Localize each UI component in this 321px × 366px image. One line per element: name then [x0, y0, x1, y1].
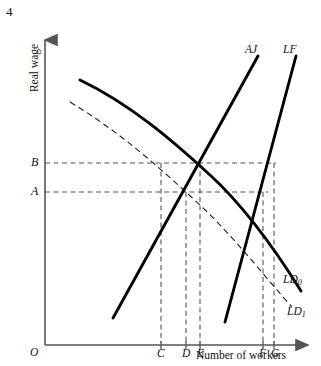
curve-label-ld1-sub: 1 [302, 310, 306, 319]
origin-label: O [30, 347, 38, 359]
curve-label-lf: LF [283, 44, 296, 56]
x-tick-label-E: E [197, 348, 204, 360]
curve-label-ld1-text: LD [287, 305, 302, 317]
curve-label-ld1: LD1 [287, 306, 306, 319]
labour-market-diagram [0, 0, 321, 366]
guide-lines [45, 163, 276, 343]
curve-ld0 [80, 80, 301, 291]
y-tick-label-B: B [31, 156, 38, 168]
y-tick-label-A: A [31, 185, 38, 197]
curve-label-ld0: LD0 [283, 274, 302, 287]
x-tick-label-D: D [182, 348, 190, 360]
diagram-canvas: 4 Real wage Number of workers [0, 0, 321, 366]
x-tick-label-G: G [271, 348, 279, 360]
curve-ld1 [70, 102, 292, 307]
x-tick-label-F: F [259, 348, 266, 360]
curve-label-ld0-sub: 0 [298, 278, 302, 287]
x-tick-label-C: C [157, 348, 165, 360]
curve-label-aj: AJ [245, 44, 257, 56]
curve-label-ld0-text: LD [283, 273, 298, 285]
